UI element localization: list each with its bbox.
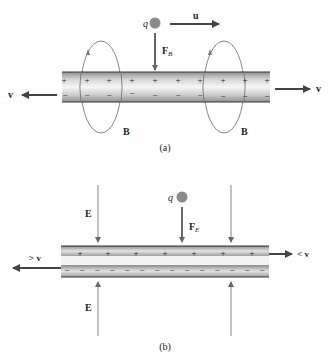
point-charge bbox=[177, 192, 188, 203]
svg-text:−: − bbox=[214, 265, 219, 275]
svg-text:+: + bbox=[197, 75, 202, 85]
svg-text:+: + bbox=[129, 75, 134, 85]
svg-text:+: + bbox=[175, 75, 180, 85]
svg-text:−: − bbox=[79, 265, 84, 275]
svg-text:+: + bbox=[133, 248, 138, 258]
svg-text:−: − bbox=[84, 90, 89, 100]
svg-text:+: + bbox=[220, 75, 225, 85]
charge-label: q bbox=[168, 192, 173, 203]
svg-text:+: + bbox=[264, 75, 269, 85]
caption-b: (b) bbox=[159, 341, 171, 353]
svg-text:−: − bbox=[94, 265, 99, 275]
svg-text:+: + bbox=[162, 248, 167, 258]
panel-b: + + + + + + + − − − − − − − − − − − − − … bbox=[13, 185, 309, 353]
svg-text:+: + bbox=[152, 75, 157, 85]
left-velocity-label: > v bbox=[29, 253, 41, 263]
svg-text:+: + bbox=[106, 75, 111, 85]
diagram-canvas: + + + + + + + + + + − − − − − − − − − − … bbox=[0, 0, 330, 357]
svg-text:+: + bbox=[84, 75, 89, 85]
svg-text:+: + bbox=[249, 248, 254, 258]
svg-text:+: + bbox=[220, 248, 225, 258]
svg-text:−: − bbox=[139, 265, 144, 275]
negative-strip bbox=[61, 265, 269, 277]
svg-text:−: − bbox=[229, 265, 234, 275]
magnetic-field-label-left: B bbox=[123, 126, 130, 137]
svg-text:+: + bbox=[105, 248, 110, 258]
right-velocity-label: < v bbox=[297, 249, 309, 259]
svg-text:−: − bbox=[106, 90, 111, 100]
svg-text:−: − bbox=[184, 265, 189, 275]
electric-field-label-top: E bbox=[85, 208, 92, 219]
svg-text:−: − bbox=[129, 88, 134, 98]
svg-text:−: − bbox=[109, 265, 114, 275]
svg-text:−: − bbox=[197, 90, 202, 100]
svg-text:−: − bbox=[62, 90, 67, 100]
current-carrying-wire bbox=[62, 72, 270, 102]
panel-a: + + + + + + + + + + − − − − − − − − − − … bbox=[8, 10, 321, 154]
magnetic-field-label-right: B bbox=[241, 126, 248, 137]
charge-label: q bbox=[143, 18, 148, 29]
svg-text:−: − bbox=[264, 91, 269, 101]
svg-text:−: − bbox=[199, 265, 204, 275]
svg-text:−: − bbox=[152, 90, 157, 100]
svg-text:−: − bbox=[244, 265, 249, 275]
svg-text:+: + bbox=[77, 248, 82, 258]
svg-text:−: − bbox=[124, 265, 129, 275]
electric-force-label: FE bbox=[189, 221, 200, 234]
svg-text:−: − bbox=[169, 265, 174, 275]
svg-text:−: − bbox=[220, 91, 225, 101]
svg-text:−: − bbox=[64, 265, 69, 275]
caption-a: (a) bbox=[159, 142, 170, 154]
point-charge bbox=[150, 18, 161, 29]
svg-text:+: + bbox=[191, 248, 196, 258]
electric-field-label-bottom: E bbox=[85, 302, 92, 313]
svg-text:+: + bbox=[242, 75, 247, 85]
svg-text:−: − bbox=[242, 91, 247, 101]
left-velocity-label: v bbox=[8, 89, 13, 100]
svg-text:+: + bbox=[61, 75, 66, 85]
magnetic-force-label: FB bbox=[162, 45, 173, 58]
svg-text:−: − bbox=[175, 90, 180, 100]
velocity-u-label: u bbox=[193, 10, 199, 21]
right-velocity-label: v bbox=[316, 83, 321, 94]
svg-text:−: − bbox=[259, 265, 264, 275]
svg-text:−: − bbox=[154, 265, 159, 275]
